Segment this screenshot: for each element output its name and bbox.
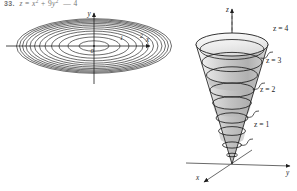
cone-z-axis-label: z — [225, 6, 229, 14]
cone-level-label-3: z = 3 — [266, 56, 281, 65]
cone-surface-group: y x z — [186, 6, 290, 182]
cone-y-axis — [186, 163, 290, 166]
cone-level-label-2: z = 2 — [260, 85, 275, 94]
contour-map-group: y x 0 1 2 — [6, 10, 172, 85]
cone-x-axis — [204, 150, 252, 182]
cone-x-axis-label: x — [195, 174, 200, 182]
cone-level-label-1: z = 1 — [254, 120, 269, 129]
contour-value-label-1: 1 — [120, 35, 123, 41]
cone-y-axis-label: y — [285, 169, 290, 177]
cone-lateral-surface — [196, 45, 268, 165]
contour-value-label-2: 2 — [140, 33, 143, 39]
cone-body — [196, 45, 268, 165]
contour-y-axis-label: y — [87, 10, 92, 18]
cone-top-rim — [196, 33, 268, 60]
figure-svg: y x 0 1 2 — [0, 0, 297, 191]
cone-level-label-4: z = 4 — [273, 24, 288, 33]
figure-container: 33. z = x2 + 9y2 — 4 — [0, 0, 297, 191]
